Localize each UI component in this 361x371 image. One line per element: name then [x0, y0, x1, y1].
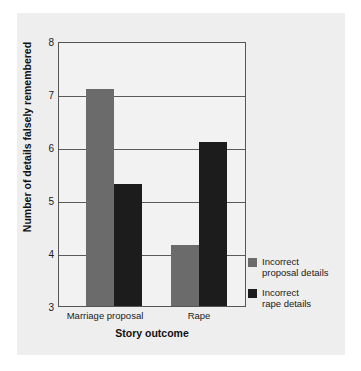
- legend-swatch-icon: [248, 258, 257, 267]
- legend-entry-incorrect-rape-details: Incorrect rape details: [246, 287, 346, 311]
- legend-label-line1: Incorrect: [262, 287, 346, 298]
- x-axis-title: Story outcome: [58, 327, 246, 339]
- y-axis-title: Number of details falsely remembered: [21, 22, 33, 252]
- legend-label-line1: Incorrect: [262, 256, 346, 267]
- x-tick-label-rape: Rape: [152, 310, 246, 321]
- x-tick-label-marriage-proposal: Marriage proposal: [58, 310, 152, 321]
- legend-swatch-icon: [248, 289, 257, 298]
- y-tick-label: 5: [14, 196, 54, 207]
- legend-entry-incorrect-proposal-details: Incorrect proposal details: [246, 256, 346, 280]
- legend-label-line2: rape details: [262, 298, 346, 309]
- chart-legend: Incorrect proposal details Incorrect rap…: [246, 256, 346, 318]
- bar-rape-incorrect-proposal-details: [171, 245, 199, 306]
- bar-marriage-proposal-incorrect-rape-details: [114, 184, 142, 306]
- plot-area: [58, 42, 246, 307]
- y-tick-label: 8: [14, 37, 54, 48]
- legend-label-line2: proposal details: [262, 267, 346, 278]
- y-tick-label: 3: [14, 302, 54, 313]
- y-tick-label: 4: [14, 249, 54, 260]
- bar-marriage-proposal-incorrect-proposal-details: [86, 89, 114, 306]
- y-tick-label: 7: [14, 90, 54, 101]
- bar-rape-incorrect-rape-details: [199, 142, 227, 306]
- y-tick-label: 6: [14, 143, 54, 154]
- chart-figure: 8 7 6 5 4 3 Number of details falsely re…: [0, 0, 361, 371]
